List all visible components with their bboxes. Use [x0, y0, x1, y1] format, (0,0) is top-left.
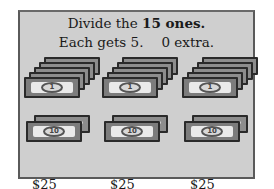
- bill-denomination: 1: [199, 82, 221, 93]
- group-total: $25: [32, 177, 57, 189]
- division-panel: Divide the 15 ones. Each gets 5.0 extra.…: [18, 10, 255, 179]
- each-gets-text: Each gets 5.: [59, 34, 144, 50]
- one-dollar-bill: 1: [24, 77, 80, 98]
- instruction-line-2: Each gets 5.0 extra.: [20, 34, 253, 50]
- bill-denomination: 10: [43, 126, 65, 137]
- instruction-bold: 15 ones.: [142, 15, 205, 31]
- ten-dollar-bill: 10: [184, 121, 240, 142]
- one-dollar-bill: 1: [102, 77, 158, 98]
- one-dollar-bill: 1: [182, 77, 238, 98]
- group-total: $25: [110, 177, 135, 189]
- bill-group-3: 1 10 $25: [182, 57, 252, 177]
- ten-dollar-bill: 10: [104, 121, 160, 142]
- group-total: $25: [190, 177, 215, 189]
- extra-text: 0 extra.: [161, 34, 214, 50]
- instruction-line-1: Divide the 15 ones.: [20, 15, 253, 31]
- bill-denomination: 1: [41, 82, 63, 93]
- bill-group-2: 1 10 $25: [102, 57, 172, 177]
- bill-denomination: 10: [201, 126, 223, 137]
- bill-denomination: 10: [121, 126, 143, 137]
- bill-group-1: 1 10 $25: [24, 57, 94, 177]
- bill-denomination: 1: [119, 82, 141, 93]
- ten-dollar-bill: 10: [26, 121, 82, 142]
- instruction-prefix: Divide the: [68, 15, 142, 31]
